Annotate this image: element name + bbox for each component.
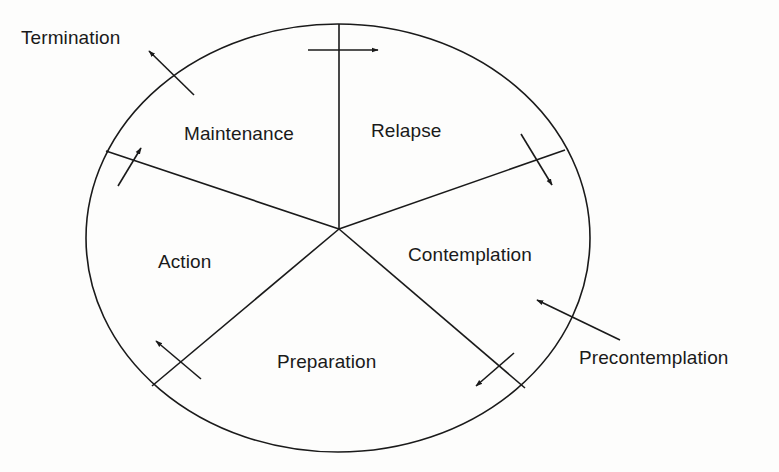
label-preparation: Preparation [277, 352, 376, 371]
label-precontemplation: Precontemplation [579, 348, 728, 367]
arrow-precontemplation-to-contemplation-icon [537, 300, 620, 340]
arrow-maintenance-to-termination-icon [149, 51, 194, 95]
spoke-action-maintenance [106, 151, 339, 229]
spoke-relapse-contemplation [339, 150, 565, 229]
arrow-preparation-to-action-icon [156, 341, 201, 379]
arrow-relapse-to-contemplation-icon [521, 134, 552, 185]
label-termination: Termination [21, 28, 120, 47]
arrow-contemplation-to-preparation-icon [476, 353, 514, 386]
spokes [106, 24, 565, 388]
label-action: Action [158, 252, 211, 271]
label-maintenance: Maintenance [184, 124, 294, 143]
cycle-ellipse [86, 24, 590, 452]
arrow-action-to-maintenance-icon [118, 148, 141, 186]
stages-of-change-diagram [0, 0, 779, 472]
label-relapse: Relapse [371, 121, 441, 140]
label-contemplation: Contemplation [408, 245, 532, 264]
